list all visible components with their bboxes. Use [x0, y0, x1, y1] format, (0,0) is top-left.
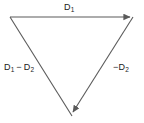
- left-edge-label-second-symbol: D: [24, 62, 31, 72]
- top-edge-label: D1: [64, 3, 74, 12]
- top-edge-label-subscript: 1: [71, 6, 75, 13]
- left-edge-label-first-symbol: D: [4, 62, 11, 72]
- vector-triangle-figure: D1 D1−D2 −D2: [0, 0, 144, 123]
- left-edge-label-subscript: 2: [31, 66, 35, 73]
- right-edge-label-subscript: 2: [125, 66, 129, 73]
- left-edge-label-operator: −: [14, 62, 23, 72]
- top-edge-label-symbol: D: [64, 2, 71, 12]
- right-edge-label: −D2: [113, 63, 129, 72]
- left-edge-label: D1−D2: [4, 63, 34, 72]
- left-edge-label-first-subscript: 1: [11, 66, 15, 73]
